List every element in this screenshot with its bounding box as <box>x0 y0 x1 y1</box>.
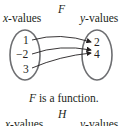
caption: F is a function. <box>29 92 99 104</box>
range-label-h: y-values <box>80 118 118 126</box>
domain-value-3: 3 <box>23 63 29 75</box>
arrow-1-to-2 <box>32 36 91 42</box>
domain-value-1: 1 <box>23 34 29 46</box>
range-value-4: 4 <box>94 48 100 60</box>
diagram-title-h: H <box>58 108 66 120</box>
range-value-2: 2 <box>94 36 100 48</box>
domain-label-h: x-values <box>5 118 43 126</box>
domain-value-neg2: −2 <box>16 48 28 60</box>
range-label: y-values <box>80 12 118 24</box>
domain-label: x-values <box>3 12 41 24</box>
diagram-title-f: F <box>58 3 65 15</box>
